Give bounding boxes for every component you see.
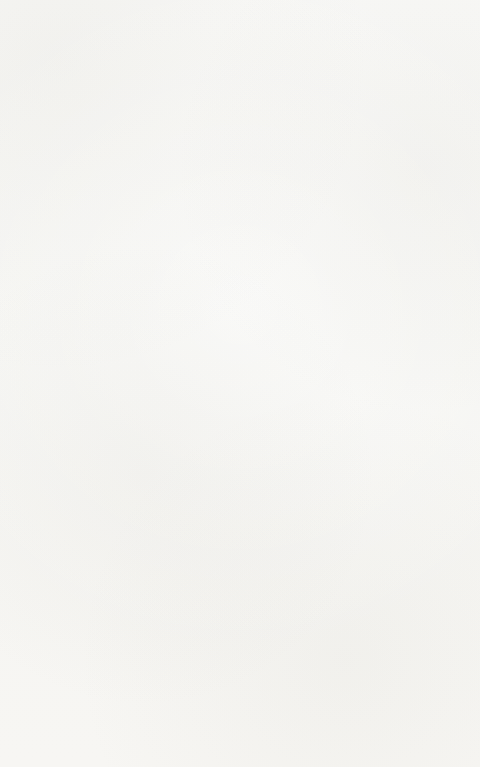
shield-wrap-bend-sinister: [177, 205, 303, 322]
shield-bend-sinister: [177, 205, 303, 322]
figure-label-bend: THE BEND: [43, 334, 117, 348]
shield-canton: [337, 384, 463, 501]
shield-wrap-saltire: [337, 205, 463, 322]
shield-wrap-orle: [177, 563, 303, 680]
figure-bend-sinister: THE BEND SINISTER: [160, 205, 320, 384]
figure-label-chevron: THE CHEVRON: [28, 513, 132, 527]
shield-chevron: [17, 384, 143, 501]
shield-wrap-flanches: [337, 563, 463, 680]
figure-label-pale: THE PALE: [45, 155, 115, 169]
figure-label-flanches: FLANCHES: [362, 692, 438, 706]
figure-label-saltire: THE SALTIRE: [353, 334, 447, 348]
shield-bend: [17, 205, 143, 322]
shield-chief: [177, 384, 303, 501]
figure-pale: THE PALE: [0, 26, 160, 205]
figure-label-fess: THE FESS: [205, 155, 274, 169]
shield-pile: [17, 563, 143, 680]
heraldry-plate: THE PALETHE FESSTHE CROSSTHE BENDTHE BEN…: [0, 0, 480, 767]
figure-chief: THE CHIEF: [160, 384, 320, 563]
shield-wrap-chief: [177, 384, 303, 501]
shield-wrap-pale: [17, 26, 143, 143]
figure-label-chief: THE CHIEF: [201, 513, 280, 527]
shield-wrap-bend: [17, 205, 143, 322]
shield-wrap-canton: [337, 384, 463, 501]
figure-orle: THE ORLE: [160, 563, 320, 742]
figure-cross: THE CROSS: [320, 26, 480, 205]
shield-fess: [177, 26, 303, 143]
figure-label-bend-sinister: THE BEND SINISTER: [166, 334, 314, 348]
figure-canton: THE CANTON: [320, 384, 480, 563]
shield-wrap-chevron: [17, 384, 143, 501]
shield-wrap-fess: [177, 26, 303, 143]
figure-flanches: FLANCHES: [320, 563, 480, 742]
figure-fess: THE FESS: [160, 26, 320, 205]
shield-pale: [17, 26, 143, 143]
figure-saltire: THE SALTIRE: [320, 205, 480, 384]
shield-orle: [177, 563, 303, 680]
figure-chevron: THE CHEVRON: [0, 384, 160, 563]
shield-cross: [337, 26, 463, 143]
figure-label-cross: THE CROSS: [359, 155, 440, 169]
figure-bend: THE BEND: [0, 205, 160, 384]
figure-pile: THE PILE: [0, 563, 160, 742]
shield-flanches: [337, 563, 463, 680]
shield-wrap-pile: [17, 563, 143, 680]
figure-label-pile: THE PILE: [46, 692, 113, 706]
figure-label-canton: THE CANTON: [353, 513, 447, 527]
figure-label-orle: THE ORLE: [204, 692, 276, 706]
shield-wrap-cross: [337, 26, 463, 143]
shield-saltire: [337, 205, 463, 322]
